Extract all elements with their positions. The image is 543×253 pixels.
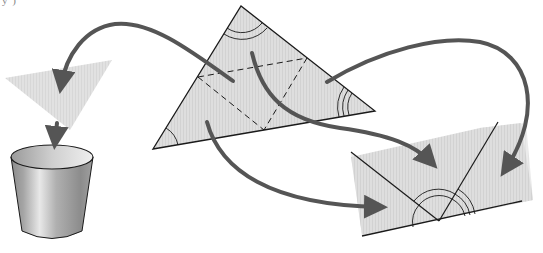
scrap-triangle xyxy=(5,60,112,130)
diagram-canvas: y ) xyxy=(0,0,543,253)
diagram-svg xyxy=(0,0,543,253)
waste-bin-icon xyxy=(11,145,93,239)
caption-remnant: y ) xyxy=(2,0,17,6)
arrow-scrap-to-bin xyxy=(55,123,57,142)
rearranged-angles-figure xyxy=(351,122,533,236)
